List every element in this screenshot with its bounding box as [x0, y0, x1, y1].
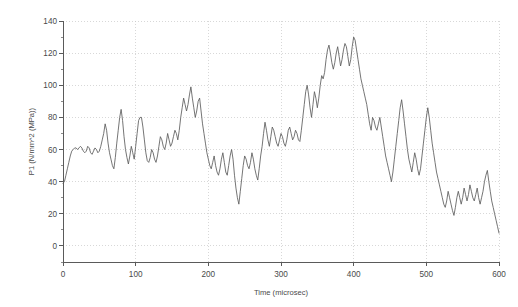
x-tick-label: 500: [419, 270, 433, 279]
x-tick-label: 0: [61, 270, 66, 279]
y-tick-label: 40: [48, 178, 58, 187]
x-tick-label: 600: [492, 270, 506, 279]
y-tick-label: 80: [48, 113, 58, 122]
y-axis-title: P1 (N/mm^2 (MPa)): [27, 107, 36, 175]
x-tick-label: 300: [274, 270, 288, 279]
y-tick-label: 100: [43, 81, 57, 90]
y-tick-label: 20: [48, 210, 58, 219]
x-axis-title: Time (microsec): [254, 288, 309, 297]
x-tick-label: 100: [129, 270, 143, 279]
y-tick-label: 120: [43, 49, 57, 58]
line-chart: 020406080100120140 0100200300400500600 T…: [0, 0, 518, 307]
y-tick-label: 0: [52, 242, 57, 251]
gridlines: [63, 21, 499, 262]
x-tick-label: 200: [201, 270, 215, 279]
y-axis-tick-labels: 020406080100120140: [43, 17, 57, 251]
y-tick-label: 60: [48, 146, 58, 155]
y-tick-label: 140: [43, 17, 57, 26]
chart-figure: 020406080100120140 0100200300400500600 T…: [0, 0, 518, 307]
x-tick-label: 400: [347, 270, 361, 279]
x-axis-tick-labels: 0100200300400500600: [61, 270, 507, 279]
